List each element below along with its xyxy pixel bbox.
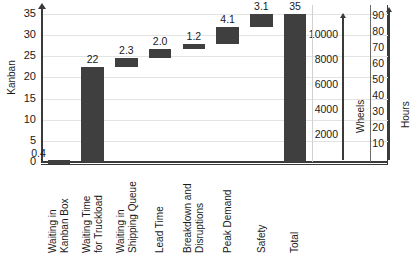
secondary-tick-label-hours: 20 (342, 122, 384, 133)
primary-y-axis-title: Kanban (6, 48, 17, 108)
primary-y-axis-line (41, 8, 43, 162)
category-label-line: Breakdown and (182, 184, 194, 254)
primary-y-tick-labels: 05101520253035 (0, 0, 38, 259)
category-label-line: Waiting in (47, 199, 59, 254)
category-label-line: Waiting Time (81, 195, 93, 253)
category-label-line: Peak Demand (222, 190, 234, 253)
category-label-7: Safety (256, 225, 268, 253)
category-label-3: Waiting inShipping Queue (115, 181, 138, 253)
secondary-tick-label-hours: 70 (342, 42, 384, 53)
secondary-tick-label-wheels: 8000 (296, 54, 338, 65)
secondary-tick-label-hours: 30 (342, 106, 384, 117)
category-label-line: Safety (256, 225, 268, 253)
category-label-6: Peak Demand (222, 190, 234, 253)
y-tick-label: 15 (24, 93, 36, 104)
category-label-line: Kanban Box (59, 199, 71, 254)
waterfall-chart: 05101520253035 Kanban 0.4222.32.01.24.13… (0, 0, 414, 259)
category-label-5: Breakdown andDisruptions (182, 184, 205, 254)
category-label-line: Lead Time (154, 206, 166, 253)
secondary-tick-label-hours: 90 (342, 10, 384, 21)
y-tick-label: 5 (30, 135, 36, 146)
y-tick-label: 10 (24, 114, 36, 125)
bar-2 (81, 67, 103, 162)
secondary-tick-label-wheels: 10000 (296, 29, 338, 40)
secondary-tick-label-wheels: 4000 (296, 104, 338, 115)
secondary-tick-label-hours: 50 (342, 74, 384, 85)
secondary-y-axis-arrow-icon-hours (386, 7, 392, 12)
bar-5 (183, 44, 205, 49)
category-label-line: Shipping Queue (126, 181, 138, 253)
category-label-2: Waiting Timefor Truckload (81, 195, 104, 253)
y-tick-label: 30 (24, 29, 36, 40)
category-label-line: Disruptions (194, 184, 206, 254)
bar-7 (250, 14, 272, 27)
bar-1 (48, 160, 70, 164)
bar-6 (216, 27, 238, 44)
category-label-line: Total (289, 232, 301, 253)
secondary-y-axis-line-hours (388, 12, 390, 160)
secondary-tick-label-hours: 60 (342, 58, 384, 69)
primary-y-axis-arrow-icon (38, 3, 46, 9)
bar-3 (115, 58, 137, 68)
category-label-4: Lead Time (154, 206, 166, 253)
category-label-line: for Truckload (93, 195, 105, 253)
y-tick-label: 35 (24, 8, 36, 19)
plot-right-separator (312, 5, 313, 162)
y-tick-label: 20 (24, 71, 36, 82)
secondary-tick-label-wheels: 2000 (296, 129, 338, 140)
bar-4 (149, 49, 171, 57)
secondary-tick-label-wheels: 6000 (296, 79, 338, 90)
secondary-tick-label-hours: 80 (342, 26, 384, 37)
category-label-line: Waiting in (115, 181, 127, 253)
axis-column-separator (370, 5, 371, 162)
secondary-y-axis-title-hours: Hours (400, 101, 411, 128)
category-label-8: Total (289, 232, 301, 253)
bar-value-label: 4.1 (206, 14, 250, 25)
y-tick-label: 25 (24, 50, 36, 61)
secondary-tick-label-hours: 40 (342, 90, 384, 101)
bar-value-label: 0.4 (20, 148, 46, 159)
bar-value-label: 35 (273, 1, 317, 12)
category-label-1: Waiting inKanban Box (47, 199, 70, 254)
bar-value-label: 1.2 (172, 31, 216, 42)
secondary-tick-label-hours: 10 (342, 138, 384, 149)
bar-value-label: 22 (71, 54, 115, 65)
